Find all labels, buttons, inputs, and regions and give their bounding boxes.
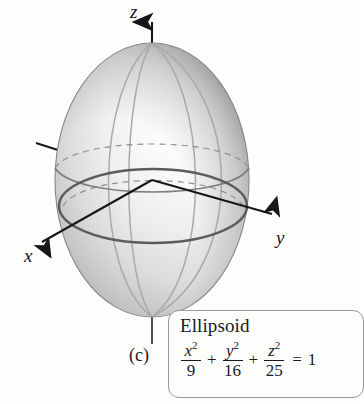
- term-y-numerator: y2: [223, 340, 242, 360]
- term-x-denominator: 9: [187, 361, 196, 379]
- term-z-numerator: z2: [265, 340, 283, 360]
- term-z: z2 25: [264, 340, 284, 379]
- term-x-numerator: x2: [181, 340, 200, 360]
- term-y-exponent: 2: [234, 339, 240, 351]
- callout-title: Ellipsoid: [180, 315, 363, 337]
- right-hand-side: 1: [308, 350, 317, 370]
- z-axis-label: z: [130, 2, 137, 21]
- x-axis-label: x: [24, 246, 32, 265]
- term-x: x2 9: [181, 340, 201, 379]
- y-axis-label: y: [276, 228, 284, 247]
- term-z-denominator: 25: [266, 361, 283, 379]
- ellipsoid-equation: x2 9 + y2 16 + z2 25 = 1: [180, 340, 363, 379]
- operator-plus-2: +: [249, 350, 259, 370]
- term-z-exponent: 2: [275, 339, 281, 351]
- part-label: (c): [129, 345, 149, 366]
- term-x-exponent: 2: [192, 339, 198, 351]
- operator-plus-1: +: [207, 350, 217, 370]
- term-y-denominator: 16: [224, 361, 241, 379]
- equals-sign: =: [292, 350, 302, 370]
- equation-callout-box: Ellipsoid x2 9 + y2 16 + z2 25 = 1: [168, 310, 364, 398]
- term-y: y2 16: [223, 340, 243, 379]
